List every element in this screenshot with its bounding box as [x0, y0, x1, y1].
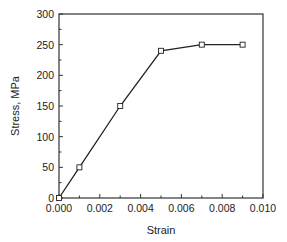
data-point-marker [159, 48, 164, 53]
data-point-marker [240, 42, 245, 47]
x-axis-label: Strain [147, 224, 176, 236]
x-tick-label: 0.010 [250, 202, 276, 214]
data-point-marker [77, 165, 82, 170]
x-axis: 0.0000.0020.0040.0060.0080.010 [46, 194, 276, 214]
x-tick-label: 0.000 [46, 202, 72, 214]
x-tick-label: 0.002 [87, 202, 113, 214]
y-tick-label: 300 [36, 8, 54, 20]
y-tick-label: 150 [36, 100, 54, 112]
y-tick-label: 200 [36, 69, 54, 81]
y-tick-label: 100 [36, 131, 54, 143]
data-point-marker [118, 104, 123, 109]
x-tick-label: 0.004 [127, 202, 153, 214]
data-point-marker [199, 42, 204, 47]
stress-strain-chart: 050100150200250300 0.0000.0020.0040.0060… [0, 0, 287, 242]
series-line [59, 45, 243, 198]
plot-frame [59, 14, 263, 198]
y-axis-label: Stress, MPa [9, 75, 21, 136]
y-tick-label: 50 [42, 161, 54, 173]
y-tick-label: 250 [36, 39, 54, 51]
x-tick-label: 0.008 [209, 202, 235, 214]
x-tick-label: 0.006 [168, 202, 194, 214]
data-point-marker [57, 196, 62, 201]
data-series [57, 42, 246, 200]
